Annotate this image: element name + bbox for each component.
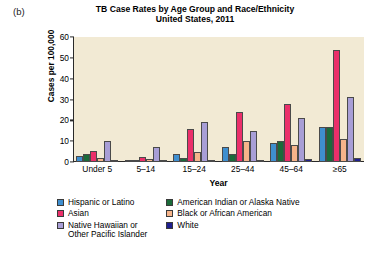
legend-column-2: American Indian or Alaska NativeBlack or… — [166, 198, 299, 240]
bar-group — [219, 37, 268, 162]
x-axis-tick-label-0: Under 5 — [73, 164, 122, 174]
bar-group — [122, 37, 171, 162]
x-axis-tick-label-1: 5–14 — [122, 164, 171, 174]
bar — [347, 97, 354, 162]
bar — [236, 112, 243, 162]
panel-letter: (b) — [13, 6, 25, 17]
legend-label: White — [177, 221, 198, 231]
bar — [222, 147, 229, 162]
plot-wrapper: Cases per 100,000 0102030405060 — [73, 37, 364, 162]
legend-swatch-icon — [166, 222, 173, 229]
bar — [160, 160, 167, 162]
bar — [83, 154, 90, 162]
bar-group — [170, 37, 219, 162]
bar — [104, 141, 111, 162]
bar — [298, 118, 305, 162]
bar — [284, 104, 291, 162]
bar — [139, 157, 146, 162]
chart-title-line1: TB Case Rates by Age Group and Race/Ethn… — [60, 4, 330, 14]
legend-label: Hispanic or Latino — [68, 198, 134, 208]
legend-item[interactable]: Native Hawaiian or Other Pacific Islande… — [57, 221, 147, 241]
bar — [201, 122, 208, 162]
x-axis-tick-label-3: 25–44 — [219, 164, 268, 174]
bar — [97, 158, 104, 162]
bar — [111, 160, 118, 162]
y-axis-title: Cases per 100,000 — [46, 16, 56, 116]
bar — [76, 156, 83, 162]
bar-group — [73, 37, 122, 162]
bar — [180, 158, 187, 162]
x-axis-tick-label-2: 15–24 — [170, 164, 219, 174]
bar — [208, 160, 215, 162]
bar — [194, 152, 201, 162]
legend-swatch-icon — [57, 210, 64, 217]
legend-column-1: Hispanic or LatinoAsianNative Hawaiian o… — [57, 198, 147, 240]
x-axis-tick-label-4: 45–64 — [267, 164, 316, 174]
legend-swatch-icon — [57, 199, 64, 206]
legend-label: American Indian or Alaska Native — [177, 198, 299, 208]
bar — [250, 131, 257, 162]
chart-title-line2: United States, 2011 — [60, 14, 330, 24]
bar-groups — [73, 37, 364, 162]
bar — [354, 158, 361, 162]
chart-legend: Hispanic or LatinoAsianNative Hawaiian o… — [57, 198, 367, 240]
x-axis-tick-label-5: ≥65 — [316, 164, 365, 174]
legend-swatch-icon — [166, 199, 173, 206]
bar — [173, 154, 180, 162]
legend-item[interactable]: White — [166, 221, 299, 231]
bar — [291, 145, 298, 162]
chart-title: TB Case Rates by Age Group and Race/Ethn… — [60, 4, 330, 25]
legend-swatch-icon — [57, 222, 64, 229]
bar — [243, 141, 250, 162]
bar — [153, 147, 160, 162]
bar — [305, 159, 312, 162]
bar — [125, 160, 132, 162]
bar — [326, 127, 333, 162]
bar — [340, 139, 347, 162]
legend-item[interactable]: Asian — [57, 209, 147, 219]
bar — [132, 160, 139, 162]
bar — [270, 143, 277, 162]
x-axis-title: Year — [73, 178, 364, 188]
legend-item[interactable]: American Indian or Alaska Native — [166, 198, 299, 208]
bar — [277, 141, 284, 162]
legend-swatch-icon — [166, 210, 173, 217]
legend-label: Native Hawaiian or Other Pacific Islande… — [68, 221, 147, 241]
legend-label: Black or African American — [177, 209, 272, 219]
legend-item[interactable]: Hispanic or Latino — [57, 198, 147, 208]
bar — [187, 129, 194, 162]
legend-label: Asian — [68, 209, 89, 219]
bar — [319, 127, 326, 162]
bar-group — [316, 37, 365, 162]
bar — [146, 159, 153, 162]
legend-item[interactable]: Black or African American — [166, 209, 299, 219]
bar — [257, 160, 264, 163]
bar — [333, 50, 340, 163]
bar-group — [267, 37, 316, 162]
bar — [90, 151, 97, 162]
bar — [229, 154, 236, 162]
figure-panel: (b) TB Case Rates by Age Group and Race/… — [0, 0, 381, 256]
x-axis-tick-labels: Under 55–1415–2425–4445–64≥65 — [73, 164, 364, 174]
